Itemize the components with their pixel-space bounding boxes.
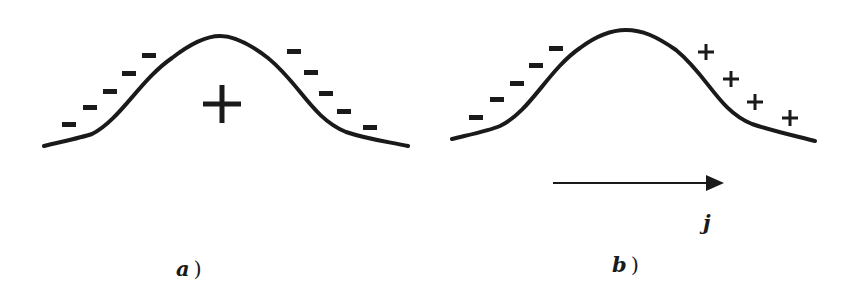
minus-sign [529, 63, 543, 68]
center-positive-charge-a [203, 85, 241, 123]
arrow-label-j: j [703, 210, 711, 235]
minus-sign [287, 49, 301, 54]
minus-sign [319, 91, 333, 96]
panel-letter: a [176, 256, 190, 281]
negative-charges-left-b [469, 46, 563, 120]
minus-sign [490, 97, 504, 102]
minus-sign [363, 125, 377, 130]
minus-sign [337, 109, 351, 114]
bell-curve-b [452, 30, 815, 141]
minus-sign [142, 53, 156, 58]
bell-curve-a [44, 36, 408, 146]
minus-sign [62, 122, 76, 127]
arrow-head-icon [706, 175, 724, 191]
panel-a [44, 36, 408, 146]
panel-letter: b [612, 252, 627, 277]
minus-sign [83, 105, 97, 110]
panel-paren: ) [194, 257, 202, 281]
panel-label-b: b) [612, 252, 639, 277]
negative-charges-left-a [62, 53, 156, 127]
minus-sign [549, 46, 563, 51]
minus-sign [122, 71, 136, 76]
positive-charges-right-b [698, 44, 798, 126]
panel-paren: ) [631, 253, 639, 277]
current-arrow [553, 175, 724, 191]
minus-sign [304, 70, 318, 75]
minus-sign [510, 81, 524, 86]
diagram-canvas [0, 0, 854, 301]
panel-label-a: a) [176, 256, 202, 281]
minus-sign [469, 115, 483, 120]
minus-sign [103, 89, 117, 94]
panel-b [452, 30, 815, 191]
